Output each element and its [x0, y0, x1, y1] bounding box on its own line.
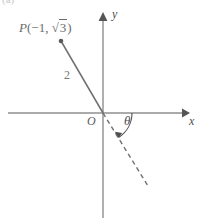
radical-icon: √	[52, 21, 59, 34]
point-p-radicand: 3	[59, 19, 68, 35]
point-p-label: P(−1, √3)	[19, 21, 72, 34]
math-figure-coordinate-plane: (a) P(−1, √3) 2 O θ y x	[0, 0, 197, 219]
point-p-close-paren: )	[67, 20, 71, 35]
point-p-marker	[59, 39, 64, 44]
angle-theta-label: θ	[124, 114, 130, 127]
segment-length-label: 2	[64, 69, 70, 81]
x-axis	[8, 109, 190, 118]
x-axis-label: x	[189, 115, 194, 127]
y-axis-label: y	[112, 8, 117, 20]
origin-label: O	[87, 115, 96, 127]
point-p-x-value: −1	[31, 20, 45, 35]
y-axis-arrowhead-icon	[99, 12, 108, 21]
y-axis	[99, 12, 108, 218]
point-p-name: P	[19, 20, 27, 35]
